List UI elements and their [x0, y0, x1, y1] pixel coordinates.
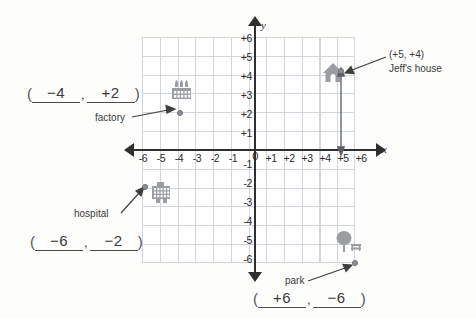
x-axis-left-arrow-icon [124, 143, 134, 157]
hospital-close-paren: ) [138, 233, 143, 251]
park-label: park [285, 275, 304, 286]
y-axis-up-arrow-icon [248, 16, 262, 26]
hospital-comma: , [83, 235, 90, 251]
factory-comma: , [80, 87, 87, 103]
answer-hospital[interactable]: ( −6 , −2 ) [30, 232, 143, 251]
y-tick--6: -6 [234, 253, 252, 265]
x-tick-+5: +5 [334, 152, 352, 164]
x-tick-+3: +3 [298, 152, 316, 164]
x-tick-+4: +4 [316, 152, 334, 164]
y-tick-+5: +5 [234, 51, 252, 63]
x-tick--5: -5 [152, 152, 170, 164]
y-axis-down-arrow-icon [248, 272, 262, 282]
factory-y-blank[interactable]: +2 [87, 84, 135, 103]
x-tick-+6: +6 [352, 152, 370, 164]
park-y-blank[interactable]: −6 [313, 289, 361, 308]
jeffs-house-coordinates: (+5, +4) [389, 48, 442, 62]
hospital-y-blank[interactable]: −2 [90, 232, 138, 251]
y-tick-+1: +1 [234, 127, 252, 139]
park-x-blank[interactable]: +6 [258, 289, 306, 308]
answer-park[interactable]: ( +6 , −6 ) [253, 289, 366, 308]
factory-x-blank[interactable]: −4 [32, 84, 80, 103]
y-tick-+4: +4 [234, 70, 252, 82]
worksheet-page: x y -6 -5 -4 -3 -2 -1 0 +1 +2 +3 +4 +5 +… [0, 0, 476, 318]
point-jeffs-house[interactable] [338, 68, 344, 74]
park-close-paren: ) [361, 290, 366, 308]
x-tick--4: -4 [170, 152, 188, 164]
x-tick-+2: +2 [280, 152, 298, 164]
answer-factory[interactable]: ( −4 , +2 ) [27, 84, 140, 103]
point-park[interactable] [352, 260, 358, 266]
y-tick--3: -3 [234, 196, 252, 208]
x-tick--6: -6 [134, 152, 152, 164]
factory-close-paren: ) [135, 85, 140, 103]
hospital-label: hospital [74, 208, 108, 219]
x-axis-label: x [382, 143, 387, 155]
factory-label: factory [95, 112, 125, 123]
x-tick-+1: +1 [262, 152, 280, 164]
jeffs-house-name: Jeff's house [389, 62, 442, 76]
y-tick--2: -2 [234, 177, 252, 189]
x-tick--3: -3 [188, 152, 206, 164]
y-tick-+2: +2 [234, 108, 252, 120]
x-tick--2: -2 [206, 152, 224, 164]
park-comma: , [306, 292, 313, 308]
y-tick--1: -1 [234, 158, 252, 170]
y-tick--5: -5 [234, 234, 252, 246]
hospital-leader-arrow [121, 187, 144, 213]
point-factory[interactable] [177, 110, 183, 116]
hospital-x-blank[interactable]: −6 [35, 232, 83, 251]
y-tick-+6: +6 [234, 32, 252, 44]
point-hospital[interactable] [142, 184, 148, 190]
y-axis-label: y [261, 19, 266, 31]
jeffs-house-callout: (+5, +4) Jeff's house [389, 48, 442, 76]
y-tick--4: -4 [234, 215, 252, 227]
y-tick-+3: +3 [234, 89, 252, 101]
park-leader-arrow [308, 265, 352, 282]
y-axis-line [254, 24, 256, 274]
